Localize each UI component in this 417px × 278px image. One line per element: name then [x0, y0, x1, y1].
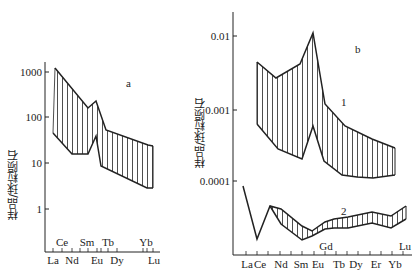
panel-b-xlabel-yb: Yb [388, 258, 402, 270]
panel-a-ylabel: 样品/球粒陨石 [6, 150, 22, 220]
panel-a-xlabel-tb: Tb [102, 236, 115, 248]
panel-a-xlabel-eu: Eu [91, 254, 104, 266]
panel-a-xlabel-dy: Dy [110, 254, 124, 266]
panel-b-series1-label: 1 [341, 96, 347, 108]
panel-a-ytick-1: 1 [37, 203, 43, 215]
panel-b-xlabel-tb: Tb [333, 258, 346, 270]
panel-b-xlabel-ce: Ce [254, 258, 266, 270]
panel-a-ytick-100: 100 [26, 111, 43, 123]
panel-b-ytick-0.0001: 0.0001 [200, 175, 230, 187]
panel-b-label: b [355, 43, 361, 55]
panel-a-label: a [126, 77, 131, 89]
panel-b: 0.01 0.001 0.0001 La Ce Nd Sm Eu Tb Dy [200, 12, 412, 270]
panel-b-xlabel-gd: Gd [319, 240, 333, 252]
panel-b-xlabel-dy: Dy [349, 258, 363, 270]
panel-b-series2-label: 2 [341, 205, 347, 217]
panel-a-xlabel-ce: Ce [56, 236, 68, 248]
panel-b-ylabel: 样品/球粒陨石 [193, 98, 209, 168]
panel-b-series2-fill [270, 206, 406, 240]
panel-a-xlabel-lu: Lu [148, 254, 161, 266]
panel-b-xlabel-la: La [241, 258, 253, 270]
panel-a-ytick-1000: 1000 [20, 66, 43, 78]
panel-a-ytick-10: 10 [31, 157, 43, 169]
panel-a: 1000 100 10 1 Ce Sm Tb Yb La Nd Eu Dy Lu [20, 62, 161, 266]
panel-b-series2-upper [243, 186, 406, 239]
panel-b-xlabel-nd: Nd [274, 258, 288, 270]
panel-a-xlabel-la: La [47, 254, 59, 266]
panel-b-xlabel-eu: Eu [312, 258, 325, 270]
panel-b-xlabel-lu: Lu [399, 240, 412, 252]
panel-a-xlabel-sm: Sm [80, 236, 95, 248]
panel-a-x-ticks [53, 248, 153, 252]
panel-a-xlabel-nd: Nd [65, 254, 79, 266]
panel-a-xlabel-yb: Yb [139, 236, 153, 248]
panel-a-envelope-fill [53, 68, 153, 188]
panel-b-xlabel-sm: Sm [294, 258, 309, 270]
panel-b-ytick-0.01: 0.01 [211, 30, 230, 42]
panel-b-xlabel-er: Er [371, 258, 382, 270]
